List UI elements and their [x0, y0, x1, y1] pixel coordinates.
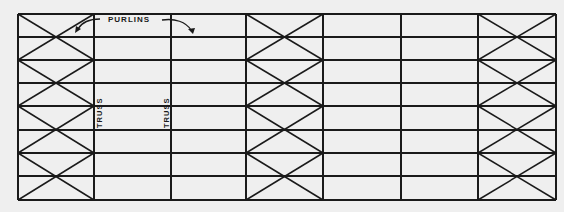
roof-framing-diagram: PURLINS TRUSS TRUSS [0, 0, 564, 212]
purlins-arrow-right-icon [162, 19, 191, 30]
purlins-arrow-left-icon [78, 19, 100, 29]
truss-label-1: TRUSS [95, 98, 104, 128]
truss-label-2: TRUSS [162, 98, 171, 128]
arrowhead-right-icon [188, 28, 195, 34]
purlins-label: PURLINS [108, 15, 150, 24]
